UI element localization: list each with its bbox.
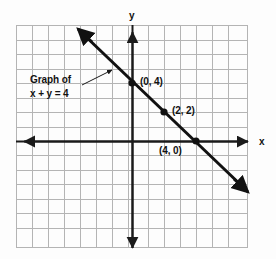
graph-annotation: Graph of x + y = 4 — [30, 73, 71, 101]
data-point-4-0 — [192, 137, 199, 144]
point-label-2-2: (2, 2) — [172, 105, 195, 116]
graph-annotation-line2: x + y = 4 — [30, 87, 71, 101]
coordinate-graph-figure: y x (0, 4) (2, 2) (4, 0) Graph of x + y … — [0, 0, 276, 259]
graph-canvas — [0, 0, 276, 259]
graph-annotation-line1: Graph of — [30, 74, 71, 85]
figure-background — [0, 0, 276, 259]
point-label-4-0: (4, 0) — [159, 145, 182, 156]
data-point-0-4 — [128, 79, 135, 86]
point-label-0-4: (0, 4) — [140, 76, 163, 87]
data-point-2-2 — [160, 108, 167, 115]
y-axis-label: y — [129, 10, 135, 21]
x-axis-label: x — [259, 136, 265, 147]
